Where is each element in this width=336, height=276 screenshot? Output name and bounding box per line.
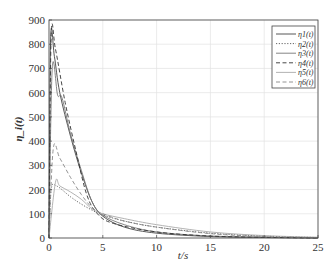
y-tick-label: 600 [29,87,46,99]
legend-label: η2(t) [298,40,314,49]
x-tick-label: 10 [151,241,163,253]
y-tick-label: 400 [29,135,46,147]
y-tick-label: 700 [29,62,46,74]
y-tick-label: 500 [29,111,46,123]
series-line-eta2 [49,184,318,238]
series-line-eta6 [49,144,318,238]
x-tick-label: 25 [313,241,325,253]
y-tick-label: 900 [29,14,46,26]
y-axis-label: η_i(t) [12,117,25,142]
legend: η1(t)η2(t)η3(t)η4(t)η5(t)η6(t) [272,26,315,88]
x-axis-label: t/s [178,249,188,261]
legend-label: η5(t) [298,68,314,77]
x-tick-label: 20 [259,241,271,253]
y-tick-label: 100 [29,208,46,220]
x-tick-label: 5 [100,241,106,253]
legend-label: η4(t) [298,59,314,68]
legend-label: η3(t) [298,49,314,58]
legend-label: η6(t) [298,78,314,87]
y-tick-label: 300 [29,159,46,171]
y-tick-label: 800 [29,38,46,50]
y-tick-label: 0 [40,232,46,244]
legend-label: η1(t) [298,30,314,39]
x-tick-label: 0 [46,241,52,253]
line-chart: 0510152025 0100200300400500600700800900 … [0,0,336,276]
y-axis-ticks: 0100200300400500600700800900 [29,14,53,244]
y-tick-label: 200 [29,184,46,196]
x-tick-label: 15 [205,241,217,253]
